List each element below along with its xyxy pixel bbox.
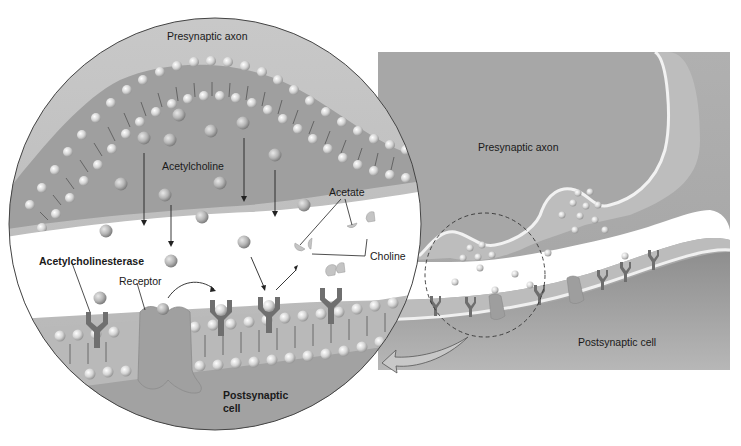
label-overview-postsynaptic-cell: Postsynaptic cell	[578, 336, 656, 348]
label-receptor: Receptor	[119, 275, 162, 287]
label-acetate: Acetate	[329, 186, 365, 198]
label-inset-postsynaptic-line2: cell	[223, 402, 241, 414]
label-overview-presynaptic-axon: Presynaptic axon	[478, 141, 559, 153]
label-acetylcholinesterase: Acetylcholinesterase	[39, 255, 144, 267]
label-choline: Choline	[370, 250, 406, 262]
label-inset-postsynaptic-line1: Postsynaptic	[223, 389, 288, 401]
overview-panel	[378, 52, 730, 370]
synapse-diagram	[0, 0, 741, 446]
label-inset-presynaptic-axon: Presynaptic axon	[167, 30, 248, 42]
magnified-inset	[0, 0, 430, 446]
label-acetylcholine: Acetylcholine	[162, 160, 224, 172]
